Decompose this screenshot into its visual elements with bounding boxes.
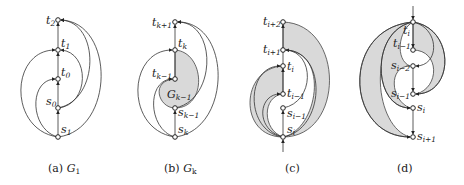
node-tk-1	[173, 77, 178, 82]
panel-b-graph: tk+1 tk tk−1 sk−1 sk Gk−1	[138, 16, 218, 139]
label-s0: s0	[46, 95, 57, 109]
label-tk+1: tk+1	[152, 16, 172, 30]
caption-c: (c)	[285, 162, 300, 175]
label-t0: t0	[61, 66, 70, 80]
label-t1: t1	[61, 37, 70, 51]
panel-a-graph: t2 t1 t0 s0 s1	[21, 14, 101, 139]
node-si	[411, 106, 416, 111]
node-tk	[173, 48, 178, 53]
label-sk: sk	[178, 123, 189, 137]
node-si+1	[411, 135, 416, 140]
node-tk+1	[173, 20, 178, 25]
label-ti+1: ti+1	[263, 43, 281, 57]
node-ti	[411, 20, 416, 25]
edge-s1-t1	[21, 50, 58, 137]
node-sk-1	[173, 106, 178, 111]
label-ti: ti	[287, 60, 294, 74]
node-t2	[56, 18, 61, 23]
label-tk-1: tk−1	[152, 67, 172, 81]
caption-b: (b) Gk	[164, 162, 197, 176]
node-ti+2	[281, 20, 286, 25]
label-s1: s1	[61, 123, 71, 137]
node-si-1	[411, 92, 416, 97]
label-tk: tk	[178, 37, 187, 51]
label-si+1: si+1	[417, 130, 436, 144]
node-si-1	[281, 106, 286, 111]
label-ti: ti	[403, 24, 410, 38]
label-si-1: si−1	[287, 107, 306, 121]
panel-c-graph: ti+2 ti+1 ti ti−1 si−1 si	[250, 15, 330, 152]
label-t2: t2	[46, 14, 55, 28]
label-ti-1: ti−1	[287, 87, 305, 101]
panel-d-graph: ti ti−1 si−2 si−1 si si+1	[360, 6, 445, 144]
node-s1	[56, 135, 61, 140]
edge-s0-t2	[58, 20, 90, 108]
label-ti-1: ti−1	[393, 37, 411, 51]
label-si: si	[287, 123, 296, 137]
node-t1	[56, 48, 61, 53]
node-sk	[173, 135, 178, 140]
node-si-2	[411, 64, 416, 69]
node-ti-1	[281, 92, 286, 97]
node-ti+1	[281, 48, 286, 53]
label-ti+2: ti+2	[263, 15, 281, 29]
label-si: si	[417, 101, 426, 115]
figure-canvas: t2 t1 t0 s0 s1 (a) G1 tk+1 tk tk−1 sk−1 …	[0, 0, 464, 185]
node-t0	[56, 77, 61, 82]
node-ti	[281, 64, 286, 69]
caption-a: (a) G1	[48, 162, 80, 176]
label-si-1: si−1	[391, 87, 410, 101]
label-sk-1: sk−1	[178, 106, 199, 120]
caption-d: (d)	[397, 162, 413, 175]
node-si	[281, 135, 286, 140]
node-ti-1	[411, 48, 416, 53]
